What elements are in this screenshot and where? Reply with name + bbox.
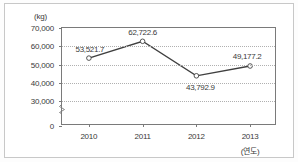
data-point-label: 43,792.9 <box>186 83 215 92</box>
y-axis-unit-label: (kg) <box>34 12 47 21</box>
line-series-layer <box>62 28 277 126</box>
x-axis-tick-mark <box>143 124 144 127</box>
y-axis-tick-mark <box>59 28 62 29</box>
x-axis-tick-mark <box>89 124 90 127</box>
y-axis-tick-label: 50,000 <box>8 60 54 69</box>
x-axis-tick-label: 2011 <box>134 132 150 141</box>
y-axis-tick-label: 70,000 <box>8 24 54 33</box>
y-axis-tick-mark <box>59 83 62 84</box>
y-axis-tick-mark <box>59 46 62 47</box>
chart-figure: (kg) 70,00060,00050,00040,00030,00002010… <box>0 0 298 162</box>
data-point-label: 49,177.2 <box>233 52 262 61</box>
plot-area: 70,00060,00050,00040,00030,0000201020112… <box>61 27 276 125</box>
data-point-marker[interactable] <box>140 39 145 44</box>
y-axis-tick-mark <box>59 126 62 127</box>
gridline <box>62 83 275 84</box>
y-axis-tick-label: 60,000 <box>8 42 54 51</box>
plot-inner: 70,00060,00050,00040,00030,0000201020112… <box>62 28 275 124</box>
x-axis-tick-mark <box>250 124 251 127</box>
x-axis-unit-label: (연도) <box>241 145 260 156</box>
data-point-label: 62,722.6 <box>128 28 157 37</box>
x-axis-tick-label: 2013 <box>242 132 259 141</box>
y-axis-tick-label: 0 <box>8 122 54 131</box>
data-point-label: 53,521.7 <box>76 45 105 54</box>
data-point-marker[interactable] <box>87 56 92 61</box>
x-axis-tick-label: 2012 <box>188 132 205 141</box>
y-axis-tick-mark <box>59 65 62 66</box>
axis-break-icon <box>58 104 66 114</box>
x-axis-tick-label: 2010 <box>80 132 97 141</box>
y-axis-tick-label: 40,000 <box>8 78 54 87</box>
gridline <box>62 101 275 102</box>
x-axis-tick-mark <box>196 124 197 127</box>
y-axis-tick-mark <box>59 101 62 102</box>
gridline <box>62 65 275 66</box>
y-axis-tick-label: 30,000 <box>8 97 54 106</box>
data-point-marker[interactable] <box>194 74 199 79</box>
